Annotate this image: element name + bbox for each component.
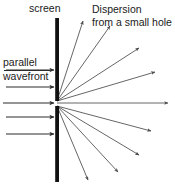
- physics-diagram-dispersion: screen Dispersion from a small hole para…: [0, 0, 175, 194]
- screen-lower-segment: [55, 106, 59, 182]
- wavefront-label: wavefront: [3, 71, 49, 83]
- screen-upper-segment: [55, 18, 59, 101]
- dispersion-ray-group: [57, 21, 168, 180]
- ray-down-3: [57, 106, 118, 172]
- screen-bar: [55, 18, 59, 182]
- parallel-label: parallel: [3, 57, 37, 69]
- ray-up-1: [57, 21, 83, 101]
- dispersion-label-line2: from a small hole: [92, 17, 172, 29]
- ray-down-1: [57, 106, 151, 131]
- ray-down-4: [57, 106, 88, 180]
- screen-label: screen: [29, 3, 61, 15]
- diagram-canvas: [0, 0, 175, 194]
- dispersion-label-line1: Dispersion: [92, 4, 142, 16]
- ray-up-3: [57, 48, 139, 101]
- ray-up-4: [57, 72, 155, 101]
- ray-down-2: [57, 106, 139, 155]
- ray-up-2: [57, 26, 110, 101]
